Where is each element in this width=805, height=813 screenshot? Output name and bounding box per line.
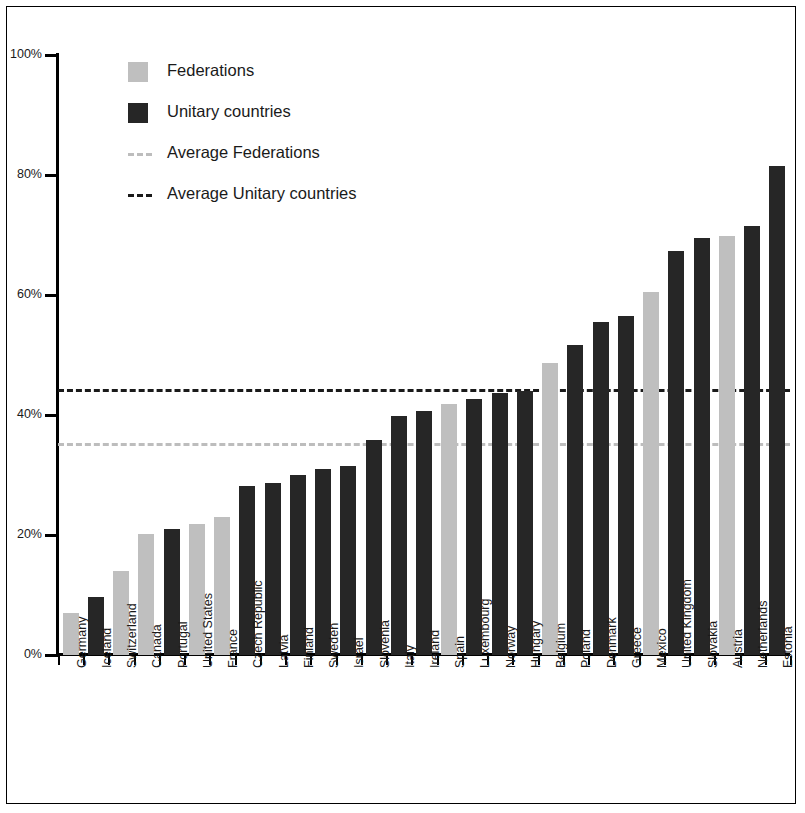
bar <box>719 236 735 655</box>
y-axis-tick-label: 60% <box>0 288 42 301</box>
x-axis-label: Latvia <box>278 635 291 668</box>
bar <box>593 322 609 655</box>
x-axis-label: Denmark <box>606 617 619 668</box>
bar <box>542 363 558 655</box>
x-axis-label: Ireland <box>429 630 442 668</box>
y-axis-tick <box>45 414 58 417</box>
bar <box>441 404 457 655</box>
x-axis-label: Hungary <box>530 621 543 668</box>
bar <box>340 466 356 655</box>
x-axis-label: Spain <box>454 636 467 668</box>
y-axis-tick <box>45 654 58 657</box>
y-axis-tick <box>45 534 58 537</box>
x-axis-label: Germany <box>76 617 89 668</box>
y-axis-tick-label: 40% <box>0 408 42 421</box>
y-axis-tick-label: 0% <box>0 648 42 661</box>
bar <box>517 391 533 655</box>
x-axis-label: Switzerland <box>126 603 139 668</box>
x-axis-label: Israel <box>353 637 366 668</box>
x-axis-label: Austria <box>732 629 745 668</box>
x-axis-label: France <box>227 629 240 668</box>
x-axis-label: Portugal <box>177 621 190 668</box>
x-axis-label: Netherlands <box>757 601 770 668</box>
x-axis-label: Czech Republic <box>252 580 265 668</box>
bar <box>492 393 508 655</box>
x-axis-label: Estonia <box>782 626 795 668</box>
x-axis-labels: GermanyIcelandSwitzerlandCanadaPortugalU… <box>58 668 790 798</box>
bar <box>769 166 785 655</box>
y-axis-tick-label: 80% <box>0 168 42 181</box>
bar <box>567 345 583 655</box>
y-axis-tick <box>45 54 58 57</box>
x-axis-label: United Kingdom <box>681 579 694 668</box>
y-axis-tick-label: 20% <box>0 528 42 541</box>
x-axis-label: Canada <box>151 624 164 668</box>
x-axis-label: Iceland <box>101 628 114 668</box>
bar <box>744 226 760 655</box>
y-axis-tick <box>45 294 58 297</box>
chart-page: Federations Unitary countries Average Fe… <box>0 0 805 813</box>
bar <box>391 416 407 655</box>
x-axis-label: Mexico <box>656 628 669 668</box>
y-axis-tick <box>45 174 58 177</box>
x-axis-label: Poland <box>580 629 593 668</box>
x-axis-label: Slovakia <box>707 621 720 668</box>
x-axis-label: Belgium <box>555 623 568 668</box>
x-axis-label: Finland <box>303 627 316 668</box>
y-axis-tick-label: 100% <box>0 48 42 61</box>
x-axis-label: Slovenia <box>379 620 392 668</box>
x-axis-label: Sweden <box>328 623 341 668</box>
x-axis-label: Norway <box>505 626 518 668</box>
x-axis-tick <box>58 656 60 665</box>
bar <box>618 316 634 655</box>
bar <box>416 411 432 655</box>
bar <box>643 292 659 655</box>
x-axis-label: Luxembourg <box>479 599 492 669</box>
x-axis-label: Italy <box>404 645 417 668</box>
bar <box>265 483 281 655</box>
bar-series <box>58 55 790 655</box>
x-axis-label: United States <box>202 593 215 668</box>
bar <box>694 238 710 655</box>
x-axis-label: Greece <box>631 627 644 668</box>
